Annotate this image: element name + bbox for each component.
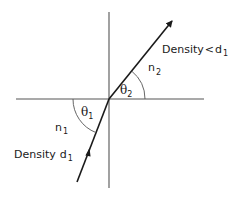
lower-density-label: Densityd1 [14,148,73,163]
refraction-diagram: Density<d1 n2 θ2 θ1 n1 Densityd1 [0,0,233,198]
lower-index-label: n1 [55,121,68,136]
upper-density-label: Density<d1 [162,43,228,58]
upper-index-label: n2 [148,61,161,77]
refracted-ray [109,21,172,99]
theta2-arc [132,71,145,99]
theta2-label: θ2 [120,83,132,99]
theta1-label: θ1 [81,105,93,121]
